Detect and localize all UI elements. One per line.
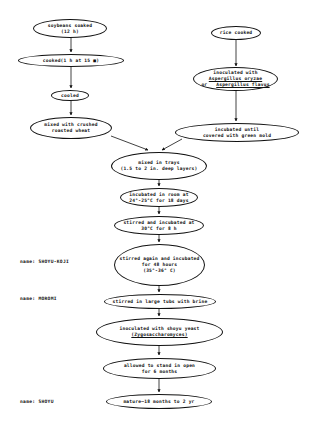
node-stirred-tubs: stirred in large tubs with brine [104,294,216,309]
node-inoculated-aspergillus: inoculated with Aspergillus oryzae or As… [193,67,278,91]
label-shoyu: name: SHOYU [20,399,54,404]
node-text-organism: Aspergillus flavus [216,82,269,87]
node-text: rice cooked [220,30,253,36]
node-mature: mature—18 months to 2 yr [106,394,212,409]
node-allowed-to-stand: allowed to stand in open for 6 months [103,358,216,379]
node-text: roasted wheat [52,128,91,134]
node-text: stirred in large tubs with brine [113,299,208,305]
node-stirred-again: stirred again and incubated for 48 hours… [114,244,205,286]
node-text: (12 h) [61,29,79,35]
label-shoyu-koji: name: SHOYU-KOJI [20,259,69,264]
node-text: for 6 months [142,369,178,375]
node-inoculated-yeast: inoculated with shoyu yeast (Zygosacchar… [96,318,223,346]
node-text: cooked(1 h at 15 ■) [43,58,99,64]
node-incubated-green-mold: incubated until covered with green mold [175,123,299,142]
node-text: cooled [61,93,79,99]
node-mixed-with-wheat: mixed with crushed roasted wheat [30,117,112,139]
node-mixed-in-trays: mixed in trays (1.5 to 2 in. deep layers… [111,152,207,180]
node-cooked: cooked(1 h at 15 ■) [18,54,124,67]
node-text: mature—18 months to 2 yr [123,399,194,405]
node-stirred-30c: stirred and incubated at 30°C for 8 h [114,216,204,235]
node-text-organism: (Zygosaccharomyces) [131,332,187,338]
node-incubated-room: incubated in room at 24°-25°C for 18 day… [120,188,198,207]
node-rice-cooked: rice cooked [211,26,261,40]
node-text: covered with green mold [203,133,271,139]
node-text: or [201,82,207,87]
label-moromi: name: MOROMI [20,296,57,301]
node-text: (1.5 to 2 in. deep layers) [120,166,197,172]
node-text: 24°-25°C for 18 days [129,198,188,204]
node-cooled: cooled [51,90,89,101]
node-text: (35°-36° C) [143,268,176,274]
node-text: 30°C for 8 h [141,226,177,232]
node-soybeans-soaked: soybeans soaked (12 h) [33,19,107,38]
